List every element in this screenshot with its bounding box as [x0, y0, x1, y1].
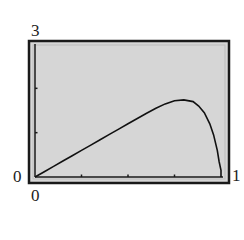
y-min-label: 0 — [13, 168, 22, 185]
x-min-label: 0 — [31, 187, 40, 204]
x-max-label: 1 — [232, 167, 241, 184]
y-max-label: 3 — [31, 22, 40, 39]
plot-frame — [29, 41, 229, 183]
